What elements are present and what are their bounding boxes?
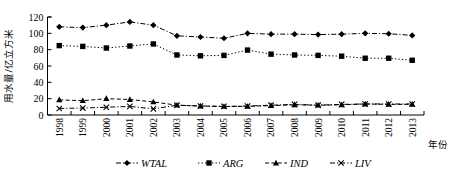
x-axis-tick-label: 2009 — [314, 118, 324, 137]
legend-label-liv: LIV — [354, 158, 372, 169]
data-point-arg — [268, 51, 273, 56]
chart-legend: WTALARGINDLIV — [116, 158, 372, 169]
y-axis-title: 用水量/亿立方米 — [3, 29, 14, 102]
series-line-liv — [59, 104, 412, 109]
x-axis-tick-label: 2003 — [172, 118, 182, 137]
data-point-wtal — [56, 24, 62, 30]
data-series-group — [56, 19, 415, 112]
x-axis-tick-label: 2011 — [361, 118, 371, 137]
legend-marker-arg — [206, 160, 211, 165]
data-point-arg — [315, 53, 320, 58]
data-point-wtal — [315, 31, 321, 37]
legend-item-wtal[interactable]: WTAL — [116, 158, 167, 169]
data-point-wtal — [268, 31, 274, 37]
y-axis-tick-label: 80 — [34, 44, 44, 55]
data-point-arg — [386, 56, 391, 61]
data-point-wtal — [80, 25, 86, 31]
y-axis-tick-label: 0 — [39, 110, 44, 121]
series-liv — [57, 101, 415, 111]
x-axis-tick-label: 2004 — [196, 118, 206, 137]
data-point-arg — [127, 43, 132, 48]
x-axis-tick-label: 2007 — [266, 118, 276, 137]
y-axis-tick-label: 20 — [34, 93, 44, 104]
x-axis-tick-label: 2008 — [290, 118, 300, 137]
series-wtal — [56, 19, 415, 42]
legend-label-arg: ARG — [222, 158, 244, 169]
x-axis-tick-label: 2012 — [384, 118, 394, 137]
x-axis-tick-label: 2006 — [243, 118, 253, 137]
data-point-wtal — [197, 34, 203, 40]
data-point-wtal — [103, 22, 109, 28]
data-point-wtal — [150, 22, 156, 28]
series-ind — [56, 95, 415, 108]
data-point-wtal — [409, 32, 415, 38]
data-point-arg — [174, 52, 179, 57]
y-axis-tick-label: 60 — [34, 61, 44, 72]
data-point-arg — [339, 54, 344, 59]
data-point-wtal — [339, 31, 345, 37]
x-axis-title: 年份 — [428, 139, 448, 150]
y-axis-tick-label: 100 — [29, 28, 44, 39]
y-axis-tick-label: 40 — [34, 77, 44, 88]
y-axis: 020406080100120 — [29, 12, 52, 121]
x-axis-tick-label: 2002 — [149, 118, 159, 137]
data-point-wtal — [386, 31, 392, 37]
legend-item-liv[interactable]: LIV — [330, 158, 372, 169]
x-axis-tick-label: 1999 — [78, 118, 88, 137]
data-point-arg — [151, 41, 156, 46]
x-axis-tick-label: 2010 — [337, 118, 347, 137]
x-axis-tick-label: 2005 — [219, 118, 229, 137]
series-line-arg — [59, 44, 412, 60]
series-line-ind — [59, 99, 412, 107]
data-point-arg — [292, 52, 297, 57]
data-point-arg — [104, 45, 109, 50]
data-point-arg — [57, 43, 62, 48]
data-point-arg — [221, 53, 226, 58]
data-point-ind — [56, 97, 62, 103]
data-point-ind — [103, 95, 109, 101]
data-point-wtal — [362, 30, 368, 36]
data-point-wtal — [174, 33, 180, 39]
data-point-arg — [362, 56, 367, 61]
legend-label-ind: IND — [289, 158, 309, 169]
data-point-arg — [410, 58, 415, 63]
x-axis: 1998199920002001200220032004200520062007… — [48, 111, 425, 137]
y-axis-tick-label: 120 — [29, 12, 44, 23]
x-axis-tick-label: 1998 — [55, 118, 65, 137]
chart-container: 020406080100120 199819992000200120022003… — [0, 0, 451, 175]
line-chart: 020406080100120 199819992000200120022003… — [0, 0, 451, 175]
x-axis-tick-label: 2001 — [125, 118, 135, 137]
legend-label-wtal: WTAL — [141, 158, 167, 169]
data-point-ind — [127, 96, 133, 102]
data-point-wtal — [244, 30, 250, 36]
data-point-arg — [245, 47, 250, 52]
data-point-arg — [80, 44, 85, 49]
data-point-wtal — [221, 35, 227, 41]
legend-item-arg[interactable]: ARG — [198, 158, 244, 169]
legend-item-ind[interactable]: IND — [265, 158, 309, 169]
x-axis-tick-label: 2013 — [408, 118, 418, 137]
series-arg — [57, 41, 415, 63]
data-point-arg — [198, 53, 203, 58]
x-axis-tick-label: 2000 — [102, 118, 112, 137]
legend-marker-wtal — [124, 160, 130, 166]
data-point-wtal — [291, 31, 297, 37]
data-point-wtal — [127, 19, 133, 25]
series-line-wtal — [59, 22, 412, 38]
